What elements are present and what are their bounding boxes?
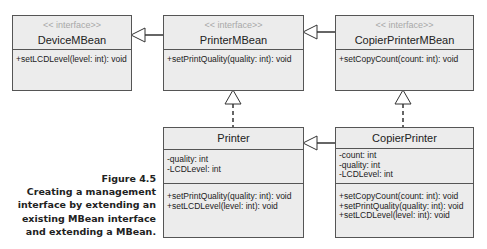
- generalization-copierprinter-printer: [303, 136, 335, 150]
- class-box-printermbean: << interface>> PrinterMBean +setPrintQua…: [163, 15, 304, 91]
- stereotype-label: << interface>>: [164, 16, 303, 31]
- generalization-printermbean-devicembean: [131, 28, 163, 42]
- class-header: << interface>> PrinterMBean: [164, 16, 303, 50]
- figure-caption: Figure 4.5 Creating a management interfa…: [18, 172, 156, 238]
- figure-number: Figure 4.5: [18, 172, 156, 185]
- caption-line: existing MBean interface: [18, 212, 156, 225]
- class-header: CopierPrinter: [336, 128, 473, 149]
- class-box-copierprinter: CopierPrinter -count: int -quality: int …: [335, 127, 474, 238]
- operations-section: +setPrintQuality(quality: int): void +se…: [164, 184, 303, 214]
- stereotype-label: << interface>>: [336, 16, 473, 31]
- realization-copierprinter-copiermbean: [395, 90, 411, 127]
- operation: +setCopyCount(count: int): void: [339, 55, 470, 65]
- caption-line: interface by extending an: [18, 198, 156, 211]
- attributes-section: -count: int -quality: int -LCDLevel: int: [336, 149, 473, 184]
- operations-section: +setLCDLevel(level: int): void: [13, 50, 131, 68]
- class-name: PrinterMBean: [164, 31, 303, 47]
- operation: +setLCDLevel(level: int): void: [16, 55, 128, 65]
- class-name: DeviceMBean: [13, 31, 131, 47]
- caption-line: Creating a management: [18, 185, 156, 198]
- operation: +setPrintQuality(quality: int): void: [167, 55, 300, 65]
- operation: +setLCDLevel(level: int): void: [167, 202, 300, 212]
- operation: +setLCDLevel(level: int): void: [339, 211, 470, 221]
- operations-section: +setCopyCount(count: int): void: [336, 50, 473, 68]
- generalization-copiermbean-printermbean: [303, 25, 335, 39]
- class-header: << interface>> DeviceMBean: [13, 16, 131, 50]
- class-box-printer: Printer -quality: int -LCDLevel: int +se…: [163, 127, 304, 238]
- attribute: -LCDLevel: int: [339, 170, 470, 180]
- attribute: -LCDLevel: int: [167, 165, 300, 175]
- class-name: Printer: [164, 128, 303, 145]
- operations-section: +setCopyCount(count: int): void +setPrin…: [336, 184, 473, 224]
- caption-line: and extending a MBean.: [18, 225, 156, 238]
- stereotype-label: << interface>>: [13, 16, 131, 31]
- class-box-devicembean: << interface>> DeviceMBean +setLCDLevel(…: [12, 15, 132, 91]
- realization-printer-printermbean: [225, 90, 241, 127]
- class-name: CopierPrinterMBean: [336, 31, 473, 47]
- class-box-copierprintermbean: << interface>> CopierPrinterMBean +setCo…: [335, 15, 474, 91]
- operations-section: +setPrintQuality(quality: int): void: [164, 50, 303, 68]
- class-header: << interface>> CopierPrinterMBean: [336, 16, 473, 50]
- attributes-section: -quality: int -LCDLevel: int: [164, 150, 303, 184]
- class-name: CopierPrinter: [336, 128, 473, 145]
- class-header: Printer: [164, 128, 303, 150]
